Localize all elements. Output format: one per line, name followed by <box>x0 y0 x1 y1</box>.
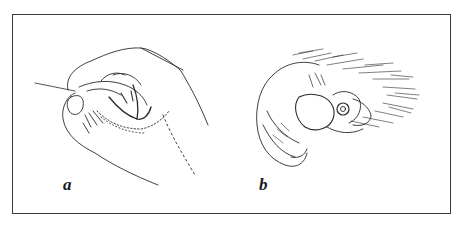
figure-frame: a <box>12 14 451 214</box>
panel-a: a <box>13 15 233 213</box>
panel-a-label: a <box>63 175 72 195</box>
panel-b-label: b <box>259 175 268 195</box>
human-hand-illustration <box>13 15 233 215</box>
panel-b: b <box>233 15 452 213</box>
